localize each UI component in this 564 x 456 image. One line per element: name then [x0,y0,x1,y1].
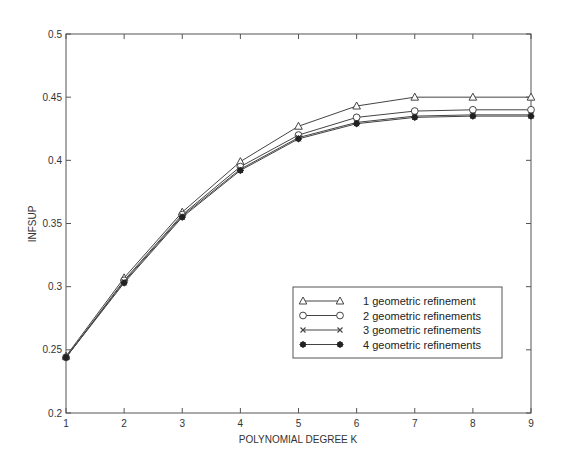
y-axis-label: INFSUP [27,205,38,242]
circle-marker [528,106,535,113]
legend-label: 4 geometric refinements [363,339,481,351]
x-tick-label: 3 [179,418,185,429]
y-tick-label: 0.2 [48,408,62,419]
x-tick-label: 7 [412,418,418,429]
legend-label: 3 geometric refinements [363,324,481,336]
legend-label: 2 geometric refinements [363,310,481,322]
y-tick-label: 0.3 [48,281,62,292]
x-tick-label: 2 [121,418,127,429]
circle-marker [411,108,418,115]
y-tick-label: 0.45 [43,92,63,103]
x-axis-label: POLYNOMIAL DEGREE K [239,434,358,445]
axes: 1234567890.20.250.30.350.40.450.5 [43,29,535,430]
y-tick-label: 0.4 [48,155,62,166]
x-tick-label: 5 [296,418,302,429]
circle-marker [337,312,344,319]
legend-label: 1 geometric refinement [363,295,476,307]
y-tick-label: 0.5 [48,29,62,40]
line-chart: 1234567890.20.250.30.350.40.450.5 1 geom… [0,0,564,456]
x-tick-label: 6 [354,418,360,429]
circle-marker [469,106,476,113]
x-tick-label: 4 [238,418,244,429]
legend: 1 geometric refinement2 geometric refine… [293,287,502,358]
y-tick-label: 0.25 [43,344,63,355]
x-tick-label: 1 [63,418,69,429]
x-tick-label: 9 [528,418,534,429]
x-tick-label: 8 [470,418,476,429]
y-tick-label: 0.35 [43,218,63,229]
circle-marker [300,312,307,319]
circle-marker [353,114,360,121]
